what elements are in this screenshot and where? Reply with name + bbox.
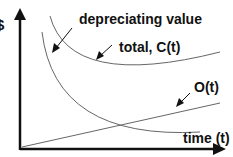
y-axis-label: $	[0, 17, 4, 32]
depreciating-value-label: depreciating value	[79, 12, 202, 26]
y-axis	[14, 8, 26, 150]
depreciating-pointer-arrow	[52, 28, 72, 53]
operating-cost-label: O(t)	[194, 80, 219, 94]
cost-diagram: $ depreciating value total, C(t) O(t) ti…	[0, 0, 233, 157]
total-cost-label: total, C(t)	[119, 40, 180, 54]
x-axis-label: time (t)	[183, 131, 230, 145]
total-pointer-arrow	[96, 45, 112, 60]
operating-pointer-arrow	[176, 93, 190, 107]
